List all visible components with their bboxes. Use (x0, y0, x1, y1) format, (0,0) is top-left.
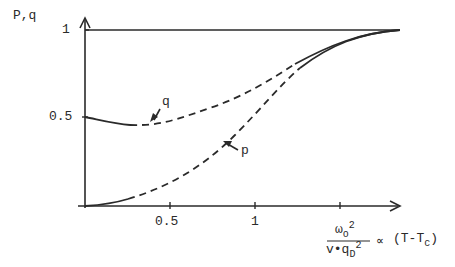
series-p (85, 30, 400, 206)
y-axis-label: P,q (13, 8, 36, 23)
xlabel-rhs: (T-Tc) (393, 231, 438, 249)
chart-canvas (0, 0, 455, 267)
x-tick-1: 1 (251, 214, 259, 229)
p-annotation-label: p (241, 143, 249, 158)
xlabel-numerator: ωo2 (335, 220, 355, 240)
q-annotation-label: q (162, 94, 170, 109)
x-tick-0.5: 0.5 (155, 214, 178, 229)
y-tick-1: 1 (62, 22, 70, 37)
xlabel-denominator: v•qD2 (326, 240, 361, 260)
series-q (85, 30, 400, 125)
xlabel-proportional: ∝ (376, 233, 384, 249)
y-tick-0.5: 0.5 (49, 109, 72, 124)
q-annotation-arrow-icon (150, 109, 160, 122)
